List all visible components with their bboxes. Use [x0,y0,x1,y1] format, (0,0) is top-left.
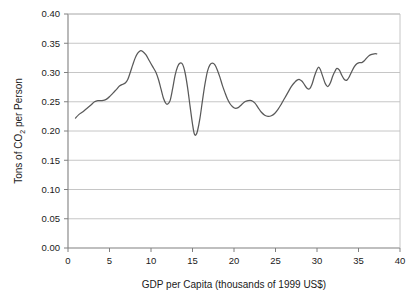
y-tick-label: 0.25 [42,96,61,107]
y-axis-ticks [64,14,68,248]
chart-svg: 0.000.050.100.150.200.250.300.350.40 051… [0,0,415,300]
y-tick-label: 0.40 [42,8,61,19]
y-axis-tick-labels: 0.000.050.100.150.200.250.300.350.40 [42,8,61,253]
x-tick-label: 10 [146,255,157,266]
y-tick-label: 0.05 [42,213,61,224]
data-series-line [75,51,376,136]
y-tick-label: 0.00 [42,242,61,253]
x-tick-label: 30 [312,255,323,266]
y-tick-label: 0.10 [42,184,61,195]
x-tick-label: 5 [107,255,112,266]
x-tick-label: 25 [270,255,281,266]
y-axis-title-post: per Person [13,78,24,130]
x-tick-label: 15 [187,255,198,266]
y-tick-label: 0.35 [42,38,61,49]
y-tick-label: 0.30 [42,67,61,78]
x-axis-tick-labels: 0510152025303540 [65,255,405,266]
y-axis-title: Tons of CO2 per Person [13,78,26,184]
x-axis-title: GDP per Capita (thousands of 1999 US$) [142,279,326,290]
y-tick-label: 0.15 [42,155,61,166]
y-axis-title-text: Tons of CO2 per Person [13,78,26,184]
series-path [75,51,376,136]
y-axis-title-pre: Tons of CO [13,134,24,184]
x-tick-label: 20 [229,255,240,266]
x-axis-ticks [68,248,400,252]
y-tick-label: 0.20 [42,125,61,136]
chart-container: 0.000.050.100.150.200.250.300.350.40 051… [0,0,415,300]
x-axis-title-text: GDP per Capita (thousands of 1999 US$) [142,279,326,290]
x-tick-label: 35 [353,255,364,266]
gridlines [68,14,400,219]
x-tick-label: 40 [395,255,406,266]
x-tick-label: 0 [65,255,70,266]
